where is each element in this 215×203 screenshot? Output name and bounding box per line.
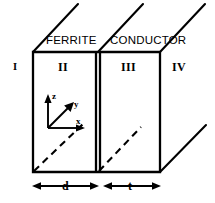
axis-y-line bbox=[48, 108, 68, 128]
slab-geometry-drawing bbox=[0, 0, 215, 203]
dimension-label-t: t bbox=[128, 180, 132, 192]
material-label-ferrite: FERRITE bbox=[46, 35, 97, 47]
axis-z-arrowhead bbox=[44, 94, 51, 103]
dim-d-arrow-right bbox=[90, 182, 99, 190]
hidden-edges-dashed bbox=[34, 124, 141, 171]
region-label-ii: II bbox=[58, 61, 68, 73]
dashed-edge-mid bbox=[99, 127, 141, 171]
axis-label-x: x bbox=[76, 117, 81, 126]
region-label-iv: IV bbox=[172, 61, 186, 73]
dim-t-arrow-right bbox=[152, 182, 161, 190]
axis-label-z: z bbox=[52, 92, 56, 101]
figure-canvas: FERRITE CONDUCTOR I II III IV z y x d t bbox=[0, 0, 215, 203]
dimension-label-d: d bbox=[62, 180, 69, 192]
dim-t-arrow-left bbox=[103, 182, 112, 190]
axis-label-y: y bbox=[74, 100, 79, 109]
perspective-edges bbox=[33, 4, 206, 172]
dim-d-arrow-left bbox=[32, 182, 41, 190]
material-label-conductor: CONDUCTOR bbox=[110, 35, 186, 47]
dashed-edge-left bbox=[34, 124, 83, 171]
edge-bottomright-receding bbox=[160, 125, 206, 172]
region-label-iii: III bbox=[121, 61, 136, 73]
region-label-i: I bbox=[13, 62, 17, 73]
dimension-arrows bbox=[32, 182, 161, 190]
